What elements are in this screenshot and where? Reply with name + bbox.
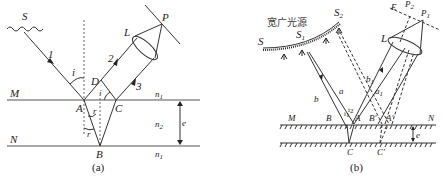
wavefront-dc xyxy=(101,80,116,100)
angle-label-r2: r xyxy=(87,129,91,139)
surface-label-n: N xyxy=(427,113,435,123)
reflected-ray-2 xyxy=(84,38,137,100)
surface-bottom-hatch xyxy=(280,143,432,147)
refracted-ray-ab xyxy=(84,100,100,146)
caption-b: (b) xyxy=(350,161,363,174)
angle-arc-i2 xyxy=(104,92,110,100)
lens-l xyxy=(129,33,161,63)
point-label-c: C xyxy=(347,147,354,157)
point-label-cp: C' xyxy=(377,147,386,157)
point-label-ap: A' xyxy=(385,113,394,123)
screen-e xyxy=(390,8,440,30)
angle-label-r: r xyxy=(93,106,97,116)
ray-label-a: a xyxy=(339,86,344,96)
source-point-s1: S1 xyxy=(296,28,305,42)
angle-label-i2: i xyxy=(99,88,102,98)
wavy-source-icon xyxy=(7,27,43,31)
point-label-a: A xyxy=(354,113,361,123)
ray-label-1: 1 xyxy=(48,48,54,60)
screen-label-e: E xyxy=(390,2,397,12)
point-label-l: L xyxy=(380,32,387,44)
surface-label-m: M xyxy=(287,113,296,123)
angle-label-i: i xyxy=(72,66,75,78)
caption-a: (a) xyxy=(92,161,105,174)
focus-ray-upper xyxy=(135,24,162,36)
figure-a: S 1 i 2 3 D i L P xyxy=(7,5,200,174)
reflected-ray-bc xyxy=(100,100,116,146)
angle-label-i2: i2 xyxy=(348,106,354,115)
arrow-down-icon xyxy=(177,140,183,145)
thickness-label-e: e xyxy=(416,130,420,140)
point-label-b: B xyxy=(326,113,332,123)
film-ray-bc xyxy=(347,125,349,143)
thickness-label-e: e xyxy=(182,118,186,128)
surface-label-m: M xyxy=(9,87,20,99)
ray-label-2: 2 xyxy=(108,52,114,64)
medium-label-n1-top: n1 xyxy=(155,89,163,101)
thin-film-interference-diagram: S 1 i 2 3 D i L P xyxy=(0,0,444,181)
emergent-ray-3 xyxy=(116,58,154,100)
arrow-down-icon xyxy=(411,138,415,142)
surface-top-hatch xyxy=(280,125,432,129)
ray-a1 xyxy=(354,48,405,124)
point-label-bp: B' xyxy=(369,113,377,123)
focus-ray-upper xyxy=(390,20,423,38)
point-label-p: P xyxy=(161,11,169,23)
ray-label-b1: b1 xyxy=(366,74,374,86)
point-label-d: D xyxy=(90,75,99,87)
source-point-s2: S2 xyxy=(334,6,344,20)
surface-label-n: N xyxy=(9,133,18,145)
film-ray-ca xyxy=(349,125,354,143)
ray-label-b: b xyxy=(314,94,319,104)
angle-arc-i xyxy=(70,78,84,84)
arrow-up-icon xyxy=(177,101,183,106)
point-label-p2: P2 xyxy=(404,0,415,11)
point-label-c: C xyxy=(115,102,123,114)
ray-label-a1: a1 xyxy=(375,86,383,98)
point-label-a: A xyxy=(75,102,83,114)
point-label-b: B xyxy=(96,148,103,160)
source-title: 宽广光源 xyxy=(267,16,307,28)
point-label-l: L xyxy=(123,26,130,38)
medium-label-n1-bottom: n1 xyxy=(155,149,163,161)
source-label-s: S xyxy=(258,35,264,47)
ray-right xyxy=(378,54,418,124)
medium-label-n2: n2 xyxy=(155,119,164,131)
figure-b: 宽广光源 S S1 S2 b a b1 a1 L xyxy=(258,0,440,174)
source-label-s: S xyxy=(22,10,28,22)
focus-ray-lower xyxy=(420,20,423,54)
point-label-p1: P1 xyxy=(420,8,430,20)
focus-ray-lower xyxy=(155,24,162,58)
ray-label-3: 3 xyxy=(135,80,142,92)
